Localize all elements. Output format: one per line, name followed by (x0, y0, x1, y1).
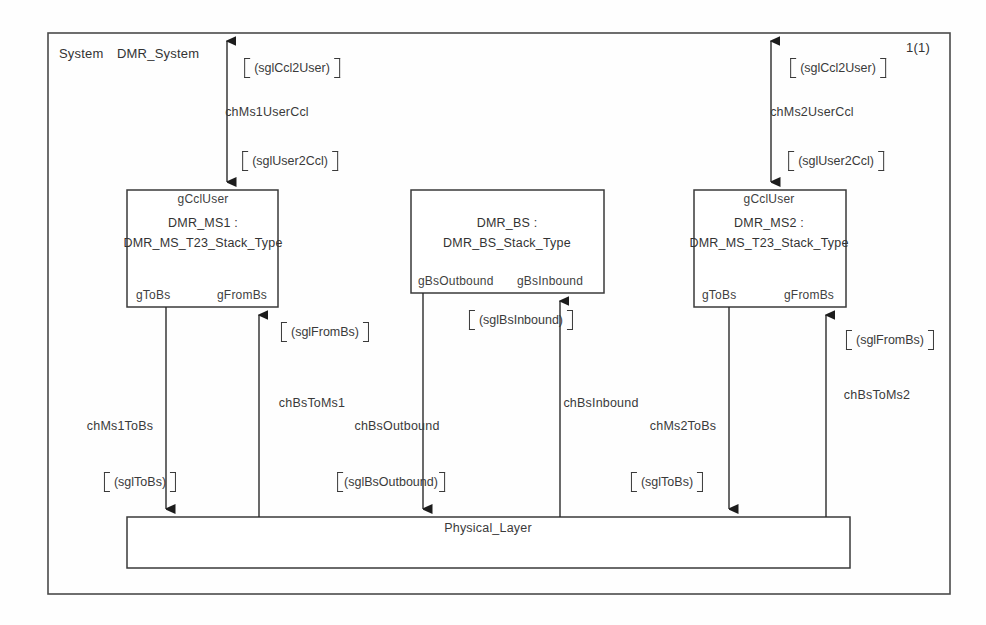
port-label-ms1-gToBs: gToBs (136, 288, 170, 302)
signal-list-sglUser2Ccl-right: (sglUser2Ccl) (788, 151, 884, 171)
system-name: DMR_System (117, 46, 199, 61)
signal-list-sglBsOutbound: (sglBsOutbound) (337, 472, 445, 492)
bracket-close-icon (878, 151, 884, 171)
signal-list-sglFromBs-left: (sglFromBs) (281, 322, 369, 342)
signal-list-sglCcl2User-right: (sglCcl2User) (790, 58, 886, 78)
bracket-close-icon (567, 310, 573, 330)
port-label-ms2-gToBs: gToBs (702, 288, 736, 302)
block-title-ms1-type: DMR_MS_T23_Stack_Type (123, 236, 282, 250)
channel-label-chBsToMs1: chBsToMs1 (279, 396, 345, 410)
block-title-ms2-type: DMR_MS_T23_Stack_Type (689, 236, 848, 250)
signal-list-text: (sglCcl2User) (250, 58, 334, 78)
signal-list-text: (sglFromBs) (287, 322, 363, 342)
bracket-close-icon (697, 472, 703, 492)
port-label-ms2-gFromBs: gFromBs (784, 288, 834, 302)
signal-list-sglFromBs-right: (sglFromBs) (846, 330, 934, 350)
block-title-physical-layer: Physical_Layer (444, 521, 532, 535)
signal-list-sglToBs-right: (sglToBs) (631, 472, 703, 492)
port-label-ms2-gCclUser: gCclUser (744, 192, 795, 206)
port-label-bs-gBsOutbound: gBsOutbound (418, 274, 494, 288)
block-title-bs-instance: DMR_BS : (477, 216, 538, 230)
port-label-ms1-gFromBs: gFromBs (217, 288, 267, 302)
page-indicator: 1(1) (906, 40, 930, 55)
block-title-ms2-instance: DMR_MS2 : (734, 216, 804, 230)
block-title-bs-type: DMR_BS_Stack_Type (443, 236, 571, 250)
channel-label-chMs2ToBs: chMs2ToBs (650, 419, 716, 433)
bracket-close-icon (880, 58, 886, 78)
bracket-close-icon (928, 330, 934, 350)
signal-list-sglUser2Ccl-left: (sglUser2Ccl) (242, 151, 338, 171)
signal-list-text: (sglToBs) (110, 472, 170, 492)
channel-label-chMs1ToBs: chMs1ToBs (87, 419, 153, 433)
channel-label-chBsOutbound: chBsOutbound (354, 419, 439, 433)
channel-label-chBsInbound: chBsInbound (563, 396, 638, 410)
bracket-close-icon (170, 472, 176, 492)
channel-label-chMs2UserCcl: chMs2UserCcl (770, 105, 854, 119)
signal-list-text: (sglFromBs) (852, 330, 928, 350)
signal-list-sglBsInbound: (sglBsInbound) (469, 310, 573, 330)
bracket-close-icon (332, 151, 338, 171)
signal-list-text: (sglUser2Ccl) (794, 151, 878, 171)
sdl-diagram-canvas: System DMR_System 1(1) (sglCcl2User) chM… (0, 0, 986, 625)
system-keyword: System (59, 46, 104, 61)
port-label-bs-gBsInbound: gBsInbound (517, 274, 583, 288)
signal-list-text: (sglBsInbound) (475, 310, 567, 330)
bracket-close-icon (334, 58, 340, 78)
signal-list-text: (sglToBs) (637, 472, 697, 492)
bracket-close-icon (363, 322, 369, 342)
signal-list-sglCcl2User-left: (sglCcl2User) (244, 58, 340, 78)
signal-list-text: (sglCcl2User) (796, 58, 880, 78)
bracket-close-icon (439, 472, 445, 492)
signal-list-text: (sglUser2Ccl) (248, 151, 332, 171)
channel-label-chBsToMs2: chBsToMs2 (844, 388, 910, 402)
signal-list-text: (sglBsOutbound) (343, 472, 439, 492)
port-label-ms1-gCclUser: gCclUser (178, 192, 229, 206)
block-title-ms1-instance: DMR_MS1 : (168, 216, 238, 230)
channel-label-chMs1UserCcl: chMs1UserCcl (225, 105, 309, 119)
signal-list-sglToBs-left: (sglToBs) (104, 472, 176, 492)
